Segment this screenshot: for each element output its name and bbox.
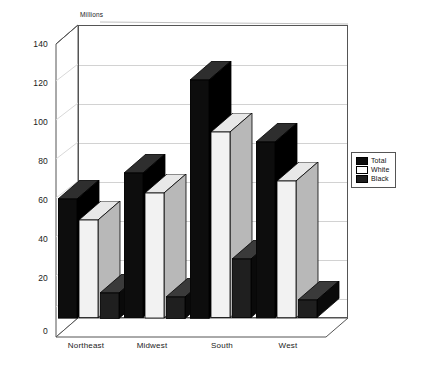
bar-west-black [298,300,317,318]
y-tick-20: 20 [14,273,48,283]
legend-item-black[interactable]: Black [356,175,392,183]
x-tick-midwest: Midwest [112,341,192,350]
bar-midwest-white [145,193,164,318]
bar-west-white [277,181,296,318]
bar-northeast-black [100,293,119,318]
bar-shape [298,281,341,320]
bar-south-total [190,80,209,318]
bar-northeast-white [79,220,98,318]
legend-swatch-black-icon [356,175,368,183]
y-tick-140: 140 [14,39,48,49]
y-tick-60: 60 [14,195,48,205]
legend-label-total: Total [371,157,386,165]
y-tick-0: 0 [14,326,48,336]
legend-swatch-total-icon [356,157,368,165]
bar-south-black [232,259,251,318]
y-tick-40: 40 [14,234,48,244]
legend-label-white: White [371,166,389,174]
x-tick-west: West [248,341,328,350]
legend-swatch-white-icon [356,166,368,174]
y-tick-80: 80 [14,156,48,166]
bar-midwest-black [166,297,185,318]
legend: Total White Black [351,152,396,188]
bar-chart: Millions 140 120 100 80 60 40 20 0 North… [0,0,422,370]
y-axis-unit-label: Millions [80,11,103,18]
bar-south-white [211,132,230,318]
legend-label-black: Black [371,175,389,183]
bar-midwest-total [124,173,143,318]
y-tick-120: 120 [14,78,48,88]
y-tick-100: 100 [14,117,48,127]
legend-item-white[interactable]: White [356,166,392,174]
bar-northeast-total [58,199,77,318]
legend-item-total[interactable]: Total [356,157,392,165]
bar-west-total [256,142,275,318]
